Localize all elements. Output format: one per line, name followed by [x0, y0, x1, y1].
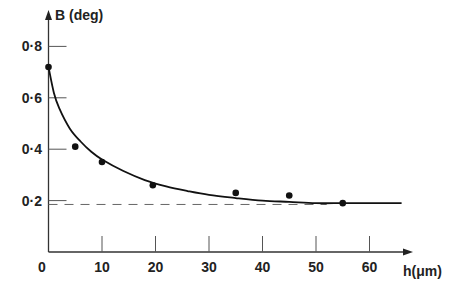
- y-tick-label: 0·2: [22, 193, 42, 209]
- data-point: [232, 190, 239, 197]
- data-point: [45, 64, 52, 71]
- tick-labels: 10203040506000·20·40·60·8: [22, 38, 378, 275]
- data-points: [45, 64, 346, 207]
- y-tick-label: 0·6: [22, 90, 42, 106]
- data-point: [286, 192, 293, 199]
- y-axis-arrow-icon: [45, 10, 52, 20]
- data-point: [99, 159, 106, 166]
- data-point: [72, 143, 79, 150]
- y-tick-label: 0·8: [22, 38, 42, 54]
- y-tick-label: 0·4: [22, 141, 42, 157]
- origin-label: 0: [38, 259, 46, 275]
- x-tick-label: 10: [94, 259, 110, 275]
- x-tick-label: 20: [148, 259, 164, 275]
- x-axis-title: h(μm): [403, 263, 442, 279]
- x-axis-arrow-icon: [403, 249, 413, 256]
- data-point: [150, 182, 157, 189]
- fitted-curve: [49, 67, 402, 203]
- data-point: [339, 200, 346, 207]
- x-tick-label: 30: [201, 259, 217, 275]
- x-tick-label: 50: [308, 259, 324, 275]
- x-tick-label: 60: [362, 259, 378, 275]
- y-axis-title: B (deg): [55, 7, 103, 23]
- ticks: [49, 46, 370, 252]
- axes: [45, 10, 413, 256]
- chart: 10203040506000·20·40·60·8 B (deg) h(μm): [0, 0, 466, 289]
- x-tick-label: 40: [255, 259, 271, 275]
